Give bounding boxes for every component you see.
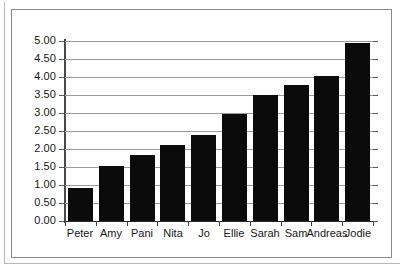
y-axis-tick — [59, 167, 64, 168]
bar-chart-figure: 5.004.504.003.503.002.502.001.501.000.50… — [0, 0, 406, 276]
x-axis-tick-label: Sam — [285, 227, 308, 239]
x-axis-tick — [311, 221, 312, 226]
y-axis-tick — [373, 167, 378, 168]
x-axis-tick-label: Amy — [100, 227, 122, 239]
bar — [160, 145, 185, 221]
y-axis-tick — [373, 59, 378, 60]
x-axis-tick-label: Sarah — [250, 227, 279, 239]
bar — [314, 76, 339, 221]
y-axis-tick — [373, 77, 378, 78]
y-axis-tick — [59, 185, 64, 186]
y-axis-tick — [59, 59, 64, 60]
bar — [191, 135, 216, 221]
bar — [253, 95, 278, 221]
x-axis-tick — [281, 221, 282, 226]
x-axis-tick — [219, 221, 220, 226]
x-axis-tick — [96, 221, 97, 226]
y-axis-tick-label: 3.00 — [16, 106, 56, 118]
x-axis-tick — [342, 221, 343, 226]
y-axis-tick — [59, 203, 64, 204]
x-axis-tick — [373, 221, 374, 226]
y-axis-tick — [373, 149, 378, 150]
y-axis-tick — [59, 131, 64, 132]
x-axis-tick-label: Pani — [131, 227, 153, 239]
y-axis-tick — [59, 149, 64, 150]
x-axis-tick — [188, 221, 189, 226]
x-axis-tick-label: Nita — [163, 227, 183, 239]
y-axis-tick — [59, 95, 64, 96]
x-axis-tick — [65, 221, 66, 226]
y-axis-tick — [373, 95, 378, 96]
bar — [222, 114, 247, 221]
y-axis-tick-label: 2.00 — [16, 142, 56, 154]
y-axis-tick — [373, 203, 378, 204]
y-axis-tick — [59, 41, 64, 42]
x-axis-tick-label: Andreas — [307, 227, 348, 239]
y-axis-tick-label: 5.00 — [16, 34, 56, 46]
x-axis-tick — [250, 221, 251, 226]
x-axis-tick-label: Jo — [198, 227, 210, 239]
y-axis-tick — [373, 41, 378, 42]
bar — [345, 43, 370, 221]
y-axis-tick-label: 4.50 — [16, 52, 56, 64]
bar — [130, 155, 155, 221]
y-axis-tick-label: 3.50 — [16, 88, 56, 100]
x-axis-tick-label: Jodie — [345, 227, 371, 239]
x-axis-tick — [127, 221, 128, 226]
y-axis-tick — [373, 185, 378, 186]
bar — [99, 166, 124, 221]
y-axis-tick-label: 0.00 — [16, 214, 56, 226]
y-axis-tick-label: 4.00 — [16, 70, 56, 82]
x-axis-tick-label: Peter — [67, 227, 93, 239]
bar — [284, 85, 309, 221]
y-axis-tick-label: 1.50 — [16, 160, 56, 172]
bar — [68, 188, 93, 221]
plot-area — [65, 41, 373, 221]
y-axis-tick — [373, 113, 378, 114]
y-axis-tick-label: 1.00 — [16, 178, 56, 190]
y-axis-tick — [373, 131, 378, 132]
y-axis-tick-label: 2.50 — [16, 124, 56, 136]
x-axis-tick-label: Ellie — [224, 227, 245, 239]
y-axis-tick — [59, 77, 64, 78]
y-axis-tick-label: 0.50 — [16, 196, 56, 208]
y-axis-tick — [59, 113, 64, 114]
y-axis-tick — [59, 221, 64, 222]
x-axis-tick — [157, 221, 158, 226]
